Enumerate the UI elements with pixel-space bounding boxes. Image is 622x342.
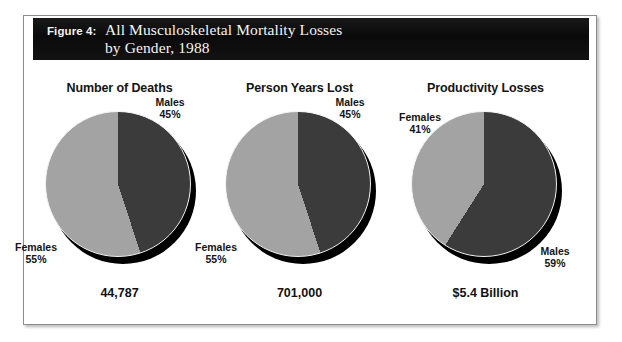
pie-chart-productivity-losses: Productivity Losses Females 41% Males 59… [390, 64, 581, 322]
slice-label-males: Males 45% [142, 97, 198, 120]
figure-number-label: Figure 4: [47, 25, 96, 37]
pie-slices [45, 111, 191, 257]
chart-title: Person Years Lost [204, 81, 395, 95]
figure-title-text: All Musculoskeletal Mortality Losses by … [105, 21, 342, 57]
pie-graphic [45, 111, 197, 263]
chart-total-value: 44,787 [24, 286, 215, 300]
charts-row: Number of Deaths Males 45% Females 55% 4… [24, 64, 598, 322]
chart-total-value: $5.4 Billion [390, 286, 581, 300]
figure-frame: Figure 4: All Musculoskeletal Mortality … [23, 15, 597, 325]
pie-slices [225, 111, 371, 257]
chart-title: Productivity Losses [390, 81, 581, 95]
pie-chart-person-years-lost: Person Years Lost Males 45% Females 55% … [204, 64, 395, 322]
pie-chart-number-of-deaths: Number of Deaths Males 45% Females 55% 4… [24, 64, 215, 322]
pie-graphic [225, 111, 377, 263]
slice-label-females: Females 41% [392, 112, 448, 135]
slice-label-males: Males 45% [322, 97, 378, 120]
figure-title-banner: Figure 4: All Musculoskeletal Mortality … [33, 18, 589, 60]
slice-label-males: Males 59% [529, 246, 581, 269]
chart-total-value: 701,000 [204, 286, 395, 300]
slice-label-females: Females 55% [188, 242, 244, 265]
chart-title: Number of Deaths [24, 81, 215, 95]
slice-label-females: Females 55% [8, 242, 64, 265]
